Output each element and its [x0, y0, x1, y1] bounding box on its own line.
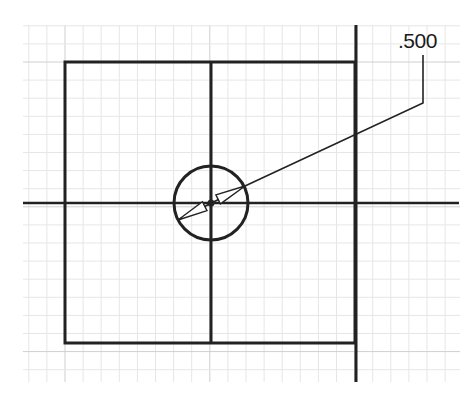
cad-sketch-canvas[interactable]: [0, 0, 475, 402]
diameter-dimension-label[interactable]: .500: [398, 30, 437, 51]
arrowhead-icon: [178, 202, 207, 220]
sketch-geometry: [23, 25, 459, 382]
center-point[interactable]: [208, 200, 215, 207]
